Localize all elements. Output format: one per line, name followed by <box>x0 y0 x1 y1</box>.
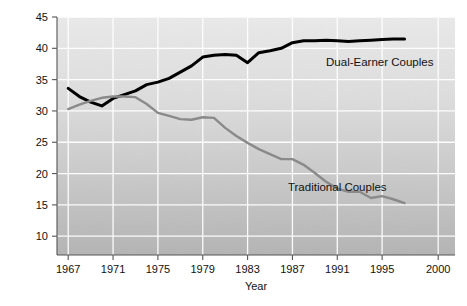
y-tick-label: 15 <box>36 199 48 211</box>
x-tick-label: 1983 <box>235 263 259 275</box>
x-tick-label: 1995 <box>370 263 394 275</box>
y-tick-label: 25 <box>36 136 48 148</box>
x-tick-label: 1975 <box>146 263 170 275</box>
x-tick-label: 1971 <box>101 263 125 275</box>
x-tick-label: 2000 <box>426 263 450 275</box>
x-tick-label: 1987 <box>280 263 304 275</box>
x-tick-label: 1991 <box>325 263 349 275</box>
y-tick-label: 45 <box>36 11 48 23</box>
y-tick-label: 20 <box>36 168 48 180</box>
y-tick-label: 35 <box>36 74 48 86</box>
y-tick-label: 30 <box>36 105 48 117</box>
x-axis-title: Year <box>245 280 268 292</box>
x-tick-label: 1979 <box>191 263 215 275</box>
y-tick-label: 40 <box>36 42 48 54</box>
line-chart: 1015202530354045 19671971197519791983198… <box>0 0 467 306</box>
y-tick-label: 10 <box>36 230 48 242</box>
chart-container: 1015202530354045 19671971197519791983198… <box>0 0 467 306</box>
series-label-dual-earner: Dual-Earner Couples <box>326 56 434 68</box>
x-tick-label: 1967 <box>56 263 80 275</box>
series-label-traditional: Traditional Couples <box>288 181 387 193</box>
plot-area-texture <box>57 17 455 255</box>
